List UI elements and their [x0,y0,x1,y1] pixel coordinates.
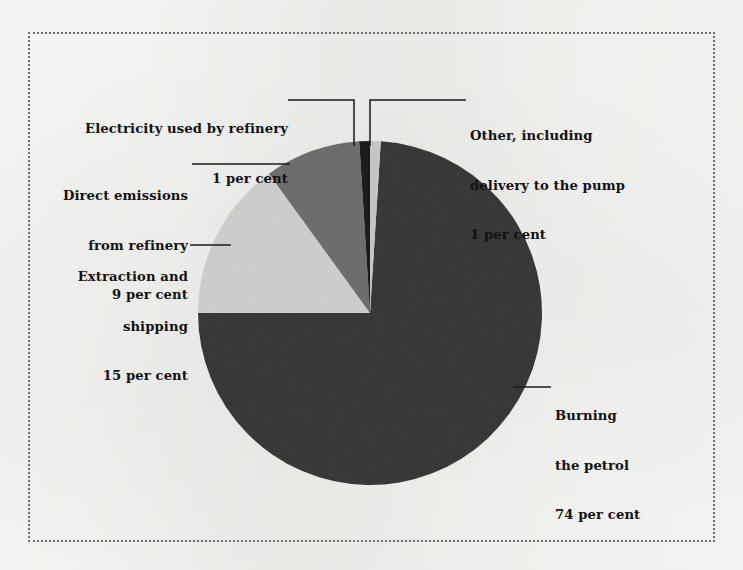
callout-other-line3: 1 per cent [470,227,690,244]
callout-burning-line3: 74 per cent [555,507,730,524]
leader-line-electricity [288,100,354,146]
callout-burning-line1: Burning [555,408,730,425]
callout-other: Other, including delivery to the pump 1 … [470,95,690,277]
callout-burning: Burning the petrol 74 per cent [555,375,730,557]
callout-extraction: Extraction and shipping 15 per cent [36,236,188,418]
callout-extraction-line1: Extraction and [36,269,188,286]
callout-direct-line1: Direct emissions [36,188,188,205]
callout-burning-line2: the petrol [555,458,730,475]
leader-line-other [370,100,466,146]
callout-extraction-line2: shipping [36,319,188,336]
callout-extraction-line3: 15 per cent [36,368,188,385]
figure-page: Electricity used by refinery 1 per cent … [0,0,743,570]
callout-other-line1: Other, including [470,128,690,145]
callout-other-line2: delivery to the pump [470,178,690,195]
callout-electricity-line1: Electricity used by refinery [36,121,288,138]
